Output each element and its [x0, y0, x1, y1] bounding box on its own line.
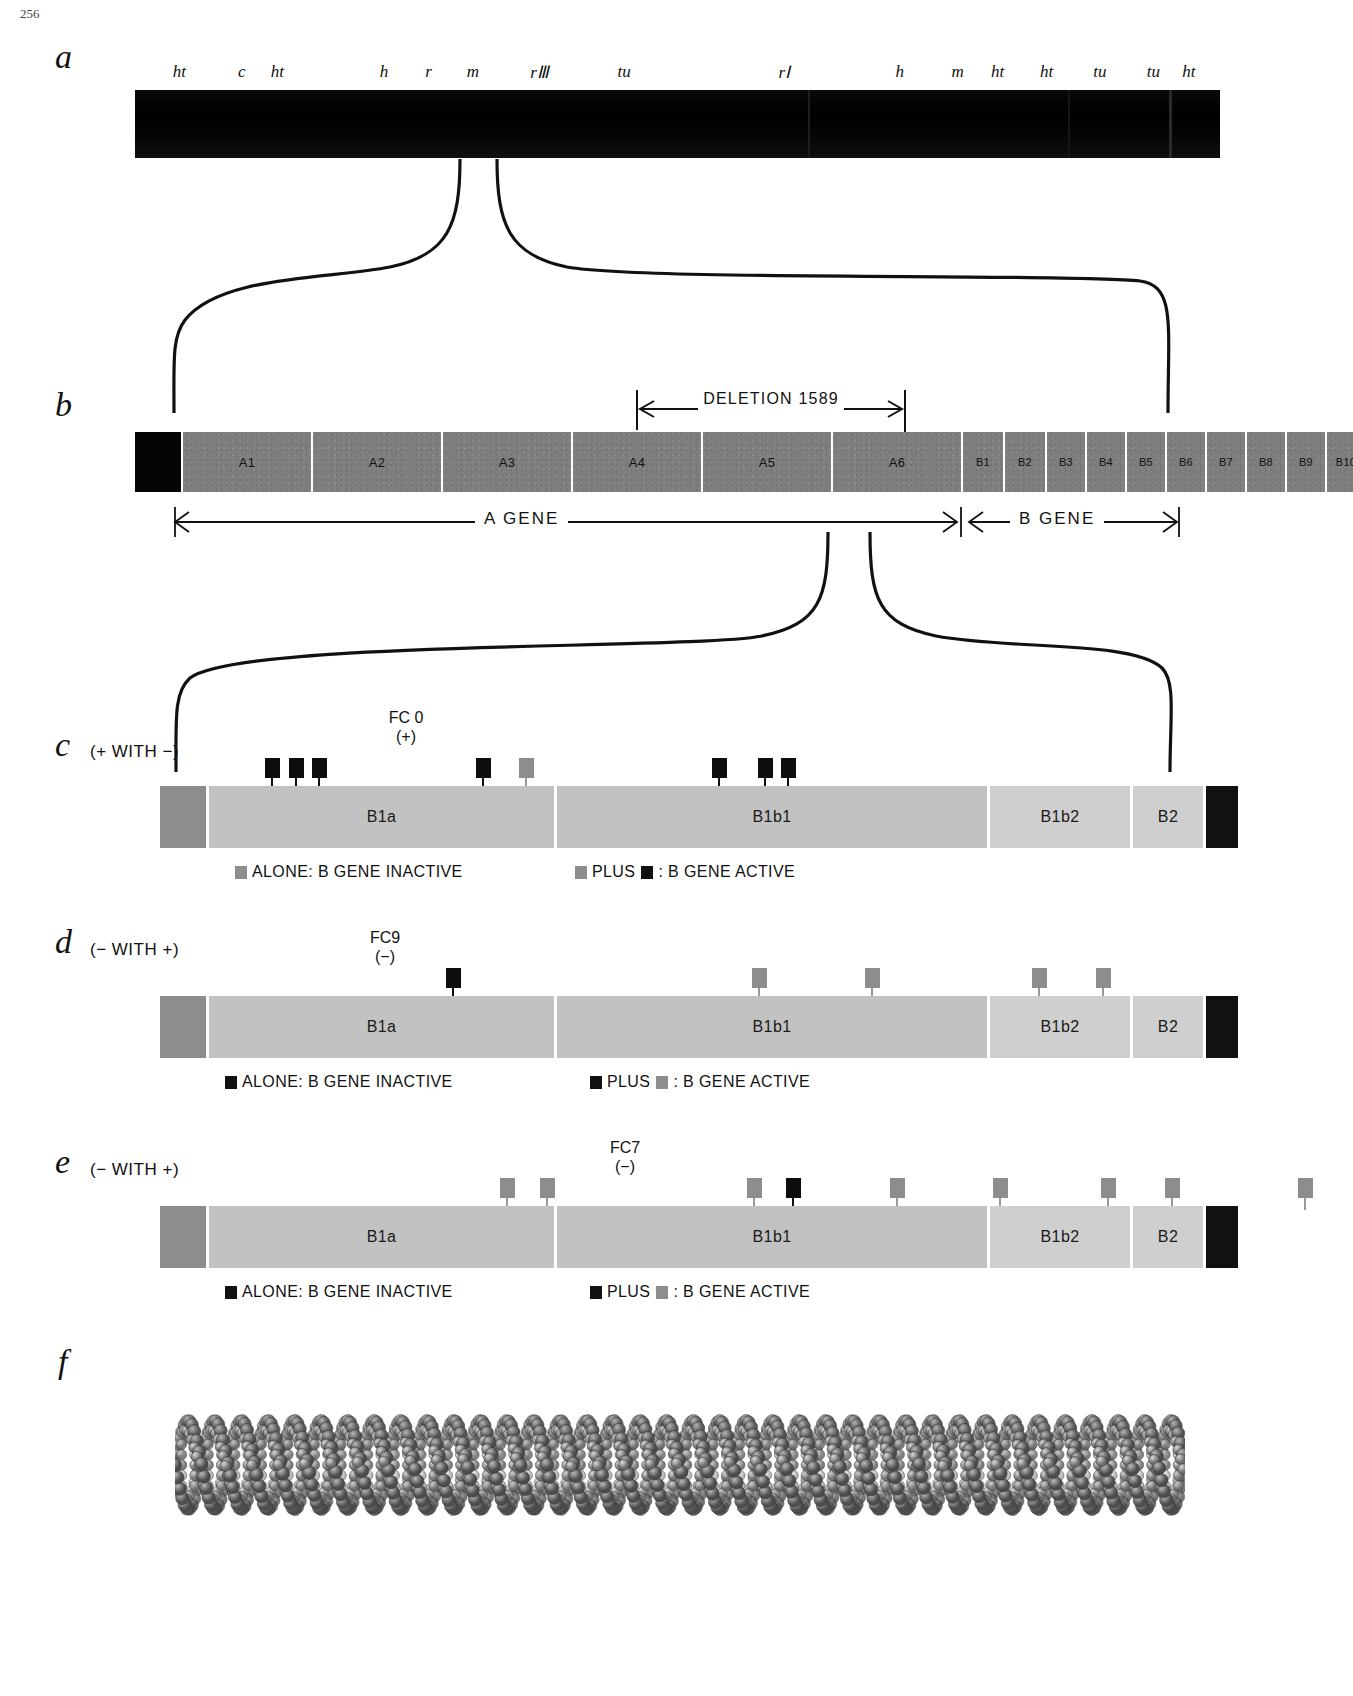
panel-d-legend-left: ALONE: B GENE INACTIVE [225, 1073, 453, 1091]
cistron-segment-label: B1a [367, 1228, 397, 1246]
legend-swatch-black [641, 866, 653, 879]
segment-label: A6 [889, 455, 906, 470]
marker-head-gray [890, 1178, 905, 1198]
panel-e-fc-name: FC7 [565, 1138, 685, 1157]
marker-head-gray [540, 1178, 555, 1198]
cistron-segment-B1b2: B1b2 [990, 996, 1133, 1058]
deletion-label: DELETION 1589 [698, 390, 844, 408]
panel-e-fc-sign: (−) [565, 1157, 685, 1176]
cistron-segment-label: B1b1 [753, 808, 792, 826]
genome-marker-ht-12: ht [1027, 62, 1067, 82]
genome-marker-h-9: h [880, 62, 920, 82]
marker-head-black [476, 758, 491, 778]
panel-c-fc-sign: (+) [346, 727, 466, 746]
legend-swatch-gray [235, 866, 247, 879]
cistron-segment-B1a: B1a [209, 1206, 557, 1268]
panel-e-caption: (− WITH +) [90, 1160, 179, 1180]
mutation-marker-e-8 [1304, 1178, 1306, 1210]
segment-label: B10 [1336, 456, 1353, 468]
panel-c-legend-right-a: PLUS [592, 863, 635, 881]
legend-swatch-gray [575, 866, 587, 879]
gene-segment-A2: A2 [313, 432, 443, 492]
panel-d-legend-right-a: PLUS [607, 1073, 650, 1091]
cistron-segment-label: B2 [1158, 1018, 1178, 1036]
connector-b-to-c [130, 528, 1240, 778]
gene-segment-B6: B6 [1167, 432, 1207, 492]
marker-head-gray [1298, 1178, 1313, 1198]
panel-e-fc-label: FC7 (−) [565, 1138, 685, 1176]
panel-e-legend-left-text: ALONE: B GENE INACTIVE [242, 1283, 453, 1301]
a-gene-label: A GENE [475, 509, 568, 529]
cistron-terminus [160, 1206, 209, 1268]
legend-swatch-gray [656, 1286, 668, 1299]
genome-marker-ht-2: ht [257, 62, 297, 82]
cistron-segment-B1b2: B1b2 [990, 786, 1133, 848]
panel-c-cistron-strip: B1aB1b1B1b2B2 [160, 786, 1220, 848]
marker-head-gray [752, 968, 767, 988]
segment-label: A3 [499, 455, 516, 470]
genome-marker-r-4: r [408, 62, 448, 82]
panel-d-fc-name: FC9 [325, 928, 445, 947]
cistron-segment-label: B1a [367, 808, 397, 826]
panel-b-letter: b [55, 388, 72, 422]
gene-segment-B10: B10 [1327, 432, 1353, 492]
segment-label: B7 [1219, 456, 1233, 468]
segment-label: B5 [1139, 456, 1153, 468]
marker-head-black [758, 758, 773, 778]
marker-head-black [446, 968, 461, 988]
legend-swatch-black [590, 1286, 602, 1299]
panel-d-cistron-strip: B1aB1b1B1b2B2 [160, 996, 1220, 1058]
panel-c-legend-left-text: ALONE: B GENE INACTIVE [252, 863, 463, 881]
panel-c-letter: c [55, 728, 70, 762]
gene-segment-A4: A4 [573, 432, 703, 492]
marker-head-gray [993, 1178, 1008, 1198]
marker-head-gray [1101, 1178, 1116, 1198]
genome-marker-tu-14: tu [1133, 62, 1173, 82]
segment-label: B9 [1299, 456, 1313, 468]
panel-d-legend-right: PLUS : B GENE ACTIVE [590, 1073, 810, 1091]
panel-d-caption: (− WITH +) [90, 940, 179, 960]
panel-e-legend-right-a: PLUS [607, 1283, 650, 1301]
cistron-segment-B1b1: B1b1 [557, 786, 990, 848]
cistron-segment-label: B1b2 [1041, 1018, 1080, 1036]
genome-marker-rII-6: rⅢ [520, 62, 560, 83]
b-gene-label: B GENE [1010, 509, 1104, 529]
gene-terminus [135, 432, 183, 492]
genome-marker-m-10: m [938, 62, 978, 82]
panel-d-legend-right-b: : B GENE ACTIVE [673, 1073, 810, 1091]
cistron-segment-B2: B2 [1133, 996, 1206, 1058]
marker-head-black [289, 758, 304, 778]
gene-segment-B4: B4 [1087, 432, 1127, 492]
segment-label: A1 [239, 455, 256, 470]
marker-head-gray [865, 968, 880, 988]
marker-head-gray [519, 758, 534, 778]
cistron-terminus [1206, 996, 1238, 1058]
connector-a-to-b [130, 155, 1230, 420]
cistron-segment-label: B1b2 [1041, 808, 1080, 826]
segment-label: B1 [976, 456, 990, 468]
gene-segment-A6: A6 [833, 432, 963, 492]
panel-c-legend-right: PLUS : B GENE ACTIVE [575, 863, 795, 881]
panel-c-legend-right-b: : B GENE ACTIVE [658, 863, 795, 881]
marker-head-gray [1165, 1178, 1180, 1198]
panel-e-cistron-strip: B1aB1b1B1b2B2 [160, 1206, 1220, 1268]
cistron-segment-B1a: B1a [209, 996, 557, 1058]
marker-head-gray [1096, 968, 1111, 988]
cistron-segment-label: B1b1 [753, 1228, 792, 1246]
cistron-segment-B2: B2 [1133, 786, 1206, 848]
cistron-segment-B1b1: B1b1 [557, 1206, 990, 1268]
gene-segment-B2: B2 [1005, 432, 1047, 492]
cistron-segment-B2: B2 [1133, 1206, 1206, 1268]
genome-marker-ht-11: ht [978, 62, 1018, 82]
panel-d-fc-label: FC9 (−) [325, 928, 445, 966]
marker-head-black [781, 758, 796, 778]
panel-e-legend-right-b: : B GENE ACTIVE [673, 1283, 810, 1301]
panel-c-legend-left: ALONE: B GENE INACTIVE [235, 863, 463, 881]
genome-marker-ht-15: ht [1169, 62, 1209, 82]
panel-d-fc-sign: (−) [325, 947, 445, 966]
genome-marker-m-5: m [453, 62, 493, 82]
cistron-segment-label: B1b2 [1041, 1228, 1080, 1246]
cistron-segment-B1a: B1a [209, 786, 557, 848]
gene-segment-B1: B1 [963, 432, 1005, 492]
dna-double-helix-model [175, 1400, 1185, 1530]
